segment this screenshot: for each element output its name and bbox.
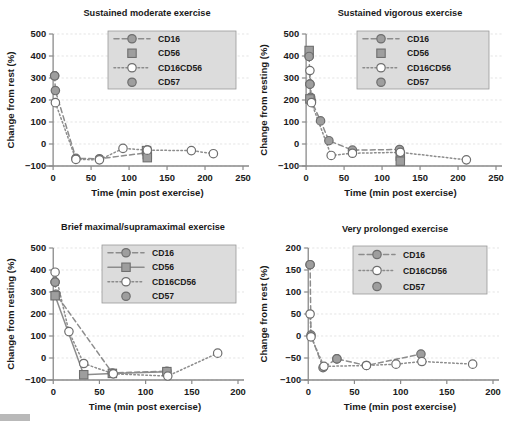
x-tick-label: 150 <box>184 386 200 397</box>
legend-marker-CD57 <box>373 282 381 290</box>
data-point-CD57 <box>51 278 59 286</box>
legend-label-CD16CD56: CD16CD56 <box>403 266 447 276</box>
x-axis-label: Time (min post exercise) <box>344 187 456 198</box>
chart-very-prolonged: Very prolonged exercise−100−500501001502… <box>253 212 506 424</box>
legend-marker-CD16 <box>373 250 381 258</box>
legend-label-CD16: CD16 <box>158 34 180 44</box>
legend-marker-CD57 <box>122 292 130 300</box>
legend-marker-CD16 <box>377 35 385 43</box>
legend-marker-CD56 <box>128 49 136 57</box>
exercise-nk-cell-figure: Sustained moderate exercise−100010020030… <box>0 0 506 424</box>
y-tick-label: 300 <box>31 286 47 297</box>
data-point-CD16CD56 <box>320 362 328 370</box>
x-tick-label: 150 <box>412 172 428 183</box>
legend-marker-CD16 <box>128 35 136 43</box>
legend-label-CD16CD56: CD16CD56 <box>407 63 451 73</box>
legend-label-CD57: CD57 <box>407 77 429 87</box>
legend-marker-CD16CD56 <box>377 64 385 72</box>
data-point-CD16CD56 <box>80 359 88 367</box>
y-tick-label: 150 <box>286 264 302 275</box>
legend-marker-CD56 <box>377 49 385 57</box>
y-tick-label: 200 <box>30 94 46 105</box>
data-point-CD16CD56 <box>209 149 217 157</box>
data-point-CD16CD56 <box>327 151 335 159</box>
x-tick-label: 150 <box>439 386 455 397</box>
y-tick-label: 100 <box>286 286 302 297</box>
y-tick-label: 0 <box>296 330 301 341</box>
data-point-CD16CD56 <box>119 144 127 152</box>
y-tick-label: 200 <box>286 242 302 253</box>
legend-marker-CD16 <box>122 249 130 257</box>
data-point-CD16CD56 <box>307 98 315 106</box>
y-tick-label: −100 <box>280 374 301 385</box>
x-tick-label: 100 <box>393 386 409 397</box>
x-tick-label: 250 <box>488 172 504 183</box>
data-point-CD16CD56 <box>418 357 426 365</box>
x-tick-label: 100 <box>121 172 137 183</box>
data-point-CD16 <box>325 137 333 145</box>
y-tick-label: 500 <box>30 28 46 39</box>
scan-artifact <box>0 414 30 421</box>
data-point-CD56 <box>396 157 404 165</box>
y-tick-label: 400 <box>283 50 299 61</box>
chart-sustained-moderate: Sustained moderate exercise−100010020030… <box>0 0 253 212</box>
x-tick-label: 50 <box>94 386 104 397</box>
y-tick-label: 200 <box>283 94 299 105</box>
chart-panel-sustained-vigorous: Sustained vigorous exercise−100010020030… <box>253 0 506 212</box>
x-axis-label: Time (min post exercise) <box>89 401 201 412</box>
x-tick-label: 200 <box>450 172 466 183</box>
data-point-CD16 <box>51 86 59 94</box>
legend-label-CD57: CD57 <box>158 77 180 87</box>
x-tick-label: 0 <box>304 172 309 183</box>
data-point-CD16CD56 <box>143 146 151 154</box>
x-tick-label: 200 <box>485 386 501 397</box>
x-tick-label: 100 <box>374 172 390 183</box>
x-axis-label: Time (min post exercise) <box>91 187 203 198</box>
chart-legend: CD16CD56CD16CD56CD57 <box>108 31 236 89</box>
data-point-CD16CD56 <box>396 148 404 156</box>
y-tick-label: 500 <box>31 242 47 253</box>
data-point-CD56 <box>80 371 88 379</box>
x-tick-label: 50 <box>86 172 96 183</box>
y-tick-label: −100 <box>25 374 46 385</box>
legend-label-CD57: CD57 <box>403 282 425 292</box>
data-point-CD16CD56 <box>187 146 195 154</box>
legend-label-CD16CD56: CD16CD56 <box>158 63 202 73</box>
x-tick-label: 150 <box>159 172 175 183</box>
legend-label-CD56: CD56 <box>158 48 180 58</box>
y-tick-label: 300 <box>30 72 46 83</box>
y-axis-label: Change from resting (%) <box>258 44 269 155</box>
data-point-CD57 <box>306 80 314 88</box>
x-axis-label: Time (min post exercise) <box>344 401 456 412</box>
chart-panel-brief-maximal: Brief maximal/supramaximal exercise−1000… <box>0 212 253 424</box>
x-tick-label: 250 <box>235 172 251 183</box>
data-point-CD16 <box>316 117 324 125</box>
data-point-CD16CD56 <box>362 361 370 369</box>
chart-title: Sustained moderate exercise <box>83 8 210 18</box>
legend-label-CD16: CD16 <box>152 248 174 258</box>
data-point-CD57 <box>306 261 314 269</box>
legend-marker-CD16CD56 <box>122 278 130 286</box>
chart-title: Brief maximal/supramaximal exercise <box>61 222 225 232</box>
x-tick-label: 200 <box>230 386 246 397</box>
legend-label-CD56: CD56 <box>407 48 429 58</box>
data-point-CD57 <box>333 355 341 363</box>
y-tick-label: 50 <box>291 308 301 319</box>
y-tick-label: 200 <box>31 308 47 319</box>
data-point-CD16CD56 <box>348 149 356 157</box>
data-point-CD16CD56 <box>468 360 476 368</box>
x-tick-label: 0 <box>51 172 56 183</box>
x-tick-label: 50 <box>349 386 359 397</box>
chart-panel-sustained-moderate: Sustained moderate exercise−100010020030… <box>0 0 253 212</box>
chart-panel-very-prolonged: Very prolonged exercise−100−500501001502… <box>253 212 506 424</box>
legend-label-CD57: CD57 <box>152 291 174 301</box>
legend-marker-CD16CD56 <box>128 64 136 72</box>
y-tick-label: 100 <box>30 116 46 127</box>
data-point-CD16CD56 <box>51 98 59 106</box>
data-point-CD16CD56 <box>95 156 103 164</box>
y-tick-label: −100 <box>25 160 46 171</box>
chart-legend: CD16CD56CD16CD56CD57 <box>102 245 236 303</box>
y-tick-label: 0 <box>294 138 299 149</box>
data-point-CD16CD56 <box>306 310 314 318</box>
y-tick-label: −100 <box>278 160 299 171</box>
